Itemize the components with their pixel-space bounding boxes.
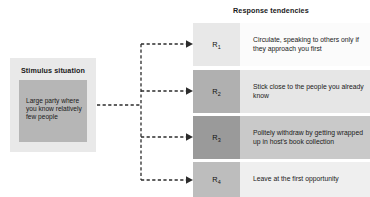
arrowhead-r4: [186, 176, 193, 184]
response-label-r4: R4: [212, 175, 220, 184]
response-row: R1 Circulate, speaking to others only if…: [193, 23, 370, 66]
arrowhead-r3: [186, 133, 193, 141]
response-label-r1: R1: [212, 40, 220, 49]
response-label-text-r1: R: [212, 40, 217, 49]
response-label-subscript-r1: 1: [218, 44, 221, 50]
response-label-box-r2: R2: [193, 70, 240, 113]
response-text-panel-r3: Politely withdraw by getting wrapped up …: [240, 116, 370, 159]
response-label-box-r1: R1: [193, 23, 240, 66]
stimulus-situation-panel: Stimulus situation Large party where you…: [10, 58, 96, 152]
stimulus-situation-text: Large party where you know relatively fe…: [26, 97, 84, 120]
arrowhead-r2: [186, 87, 193, 95]
response-label-subscript-r3: 3: [218, 137, 221, 143]
response-tendencies-title: Response tendencies: [233, 6, 309, 15]
response-tendencies-diagram: Stimulus situation Large party where you…: [0, 0, 370, 197]
response-label-text-r2: R: [212, 87, 217, 96]
response-label-r3: R3: [212, 133, 220, 142]
response-row: R4 Leave at the first opportunity: [193, 162, 370, 197]
stimulus-situation-inner-box: Large party where you know relatively fe…: [19, 80, 87, 142]
response-row: R2 Stick close to the people you already…: [193, 70, 370, 113]
response-text-panel-r2: Stick close to the people you already kn…: [240, 70, 370, 113]
response-label-text-r3: R: [212, 133, 217, 142]
response-label-text-r4: R: [212, 175, 217, 184]
response-row: R3 Politely withdraw by getting wrapped …: [193, 116, 370, 159]
arrowhead-r1: [186, 40, 193, 48]
stimulus-situation-title: Stimulus situation: [10, 66, 96, 75]
response-text-r4: Leave at the first opportunity: [240, 175, 343, 183]
response-text-r2: Stick close to the people you already kn…: [240, 83, 370, 100]
response-label-r2: R2: [212, 87, 220, 96]
response-label-box-r4: R4: [193, 162, 240, 197]
response-label-subscript-r4: 4: [218, 179, 221, 185]
response-text-panel-r4: Leave at the first opportunity: [240, 162, 370, 197]
response-text-panel-r1: Circulate, speaking to others only if th…: [240, 23, 370, 66]
response-text-r1: Circulate, speaking to others only if th…: [240, 36, 370, 53]
response-text-r3: Politely withdraw by getting wrapped up …: [240, 129, 370, 146]
response-label-subscript-r2: 2: [218, 91, 221, 97]
response-label-box-r3: R3: [193, 116, 240, 159]
